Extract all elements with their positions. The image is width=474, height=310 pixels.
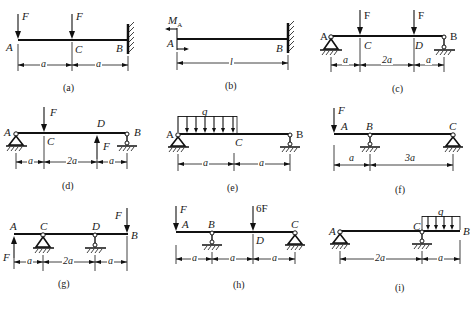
moment-label: MA [168, 15, 182, 31]
caption: (h) [233, 280, 245, 290]
dimension-label: a [425, 55, 432, 65]
caption: (i) [395, 283, 404, 293]
dimension-label: a [342, 55, 349, 65]
point-label: A [4, 127, 11, 138]
caption: (a) [63, 83, 74, 93]
dimension-label: a [348, 153, 355, 163]
caption: (c) [392, 84, 403, 94]
dimension-label: 2a [381, 55, 393, 65]
point-label: C [235, 137, 242, 148]
load-label: F [418, 10, 424, 21]
panel-i: q A C B 2a a (i) [310, 200, 474, 310]
panel-d: A C D B F F a 2a a (d) [0, 105, 155, 205]
load-label: F [115, 210, 122, 221]
caption: (g) [58, 279, 70, 289]
point-label: D [92, 221, 100, 232]
caption: (e) [227, 183, 238, 193]
point-label: B [366, 121, 373, 132]
point-label: A [167, 38, 174, 49]
point-label: B [208, 219, 215, 230]
load-label: F [50, 107, 57, 118]
point-label: C [47, 136, 54, 147]
dimension-label: a [40, 59, 47, 69]
point-label: B [463, 226, 470, 237]
load-label: F [103, 141, 110, 152]
distributed-load-label: q [438, 206, 444, 217]
dimension-label: a [229, 253, 236, 263]
caption: (b) [225, 81, 237, 91]
dimension-label: a [258, 158, 265, 168]
moment-subscript: A [177, 21, 182, 29]
load-label: F [22, 11, 29, 22]
point-label: C [75, 44, 82, 55]
panel-b: MA A B l (b) [155, 0, 310, 100]
point-label: A [341, 121, 348, 132]
dimension-label: a [271, 253, 278, 263]
dimension-label: 2a [66, 156, 78, 166]
dimension-label: a [95, 59, 102, 69]
point-label: C [449, 121, 456, 132]
panel-a: F F A C B a a (a) [0, 0, 155, 100]
dimension-label: a [108, 156, 115, 166]
dimension-label: a [202, 158, 209, 168]
panel-c: A C D B F F a 2a a (c) [310, 0, 474, 100]
dimension-label: a [437, 253, 444, 263]
load-label: F [338, 105, 345, 116]
load-label: F [364, 10, 370, 21]
point-label: B [116, 43, 123, 54]
point-label: B [296, 129, 303, 140]
beam-diagram-g [0, 200, 155, 310]
dimension-label: a [191, 253, 198, 263]
load-label: F [76, 11, 83, 22]
load-label: F [180, 204, 187, 215]
point-label: D [256, 235, 264, 246]
point-label: B [450, 31, 457, 42]
point-label: C [291, 219, 298, 230]
distributed-load-label: q [202, 106, 208, 117]
point-label: C [364, 40, 371, 51]
point-label: A [10, 221, 17, 232]
dimension-label: l [229, 57, 234, 67]
panel-h: F 6F A B D C a a a (h) [155, 200, 310, 310]
beam-diagram-d [0, 105, 155, 205]
point-label: C [40, 221, 47, 232]
dimension-label: 2a [62, 256, 74, 266]
point-label: C [413, 221, 420, 232]
point-label: B [134, 127, 141, 138]
dimension-label: 2a [374, 253, 386, 263]
caption: (d) [62, 181, 74, 191]
point-label: A [182, 219, 189, 230]
beam-diagram-i [310, 200, 474, 310]
point-label: D [415, 40, 423, 51]
caption: (f) [395, 185, 405, 195]
point-label: B [131, 230, 138, 241]
panel-f: F A B C a 3a (f) [310, 105, 474, 205]
load-label: 6F [256, 203, 268, 214]
point-label: A [329, 226, 336, 237]
dimension-label: 3a [404, 153, 416, 163]
load-label: F [3, 252, 10, 263]
dimension-label: a [107, 256, 114, 266]
moment-symbol: M [168, 14, 177, 26]
point-label: D [97, 118, 105, 129]
point-label: A [320, 31, 328, 42]
point-label: B [276, 43, 283, 54]
point-label: A [166, 129, 174, 140]
dimension-label: a [26, 256, 33, 266]
panel-g: A C D B F F a 2a a (g) [0, 200, 155, 310]
point-label: A [6, 42, 13, 53]
dimension-label: a [27, 156, 34, 166]
panel-e: q A C B a a (e) [155, 105, 310, 205]
